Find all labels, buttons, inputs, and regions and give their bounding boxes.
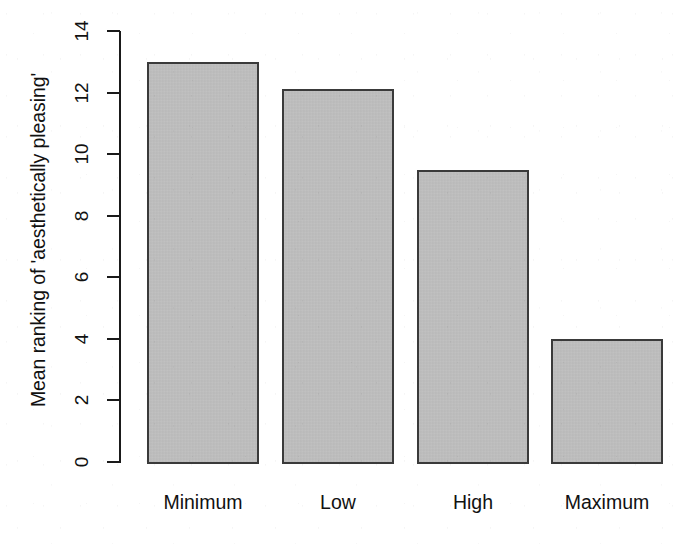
y-axis-tick-label: 10: [71, 134, 93, 174]
y-axis-tick-label: 6: [71, 257, 93, 297]
bar-texture: [284, 91, 392, 462]
y-axis-tick-label: 12: [71, 73, 93, 113]
bar: [551, 339, 663, 464]
y-axis-tick-label: 14: [71, 11, 93, 51]
bar-texture: [419, 172, 527, 462]
bar-chart: Mean ranking of 'aesthetically pleasing'…: [0, 0, 696, 544]
bar-texture: [553, 341, 661, 462]
y-axis-tick: [107, 92, 120, 94]
x-axis-category-label: Maximum: [522, 491, 692, 514]
y-axis-tick: [107, 215, 120, 217]
y-axis-tick-label: 0: [71, 442, 93, 482]
bar: [417, 170, 529, 464]
bar: [282, 89, 394, 464]
y-axis-tick: [107, 153, 120, 155]
y-axis-tick: [107, 399, 120, 401]
y-axis-tick-label: 8: [71, 196, 93, 236]
y-axis-tick: [107, 461, 120, 463]
y-axis-title: Mean ranking of 'aesthetically pleasing': [16, 10, 60, 470]
bar-texture: [149, 64, 257, 462]
y-axis-line: [119, 31, 121, 463]
y-axis-tick-label: 4: [71, 319, 93, 359]
y-axis-tick-label: 2: [71, 380, 93, 420]
y-axis-tick: [107, 338, 120, 340]
y-axis-tick: [107, 276, 120, 278]
y-axis-tick: [107, 30, 120, 32]
bar: [147, 62, 259, 464]
